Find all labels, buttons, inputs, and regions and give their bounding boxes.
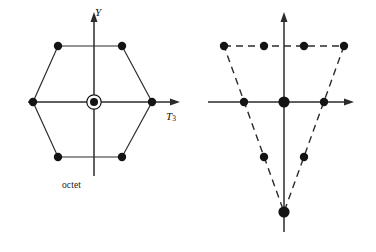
decuplet-diagram: Y T3 decuplet [188,0,376,252]
octet-diagram: Y T3 octet [0,0,188,252]
figure-canvas: Y T3 octet [0,0,376,252]
octet-point-right[interactable] [148,98,156,106]
decuplet-point-mid-1[interactable] [240,98,248,106]
octet-point-left[interactable] [29,98,37,106]
decuplet-point-low-2[interactable] [300,153,308,161]
decuplet-point-top-3[interactable] [300,42,308,50]
octet-point-center-degenerate[interactable] [87,95,101,109]
decuplet-point-apex[interactable] [278,206,289,217]
decuplet-point-mid-3[interactable] [320,98,328,106]
decuplet-point-top-4[interactable] [340,42,348,50]
octet-point-lower-left[interactable] [54,153,62,161]
octet-point-upper-right[interactable] [118,42,126,50]
octet-t3-axis-arrowhead [170,99,180,106]
octet-point-lower-right[interactable] [118,153,126,161]
decuplet-axes [208,20,346,232]
decuplet-t3-axis-arrowhead [344,99,354,106]
octet-y-axis-label: Y [95,6,101,18]
octet-point-upper-left[interactable] [54,42,62,50]
decuplet-y-axis-arrowhead [281,12,288,22]
octet-svg [0,0,188,252]
decuplet-point-top-2[interactable] [260,42,268,50]
octet-t3-axis-label: T3 [166,110,176,123]
decuplet-svg [188,0,376,252]
decuplet-point-top-1[interactable] [220,42,228,50]
octet-center-dot [90,98,98,106]
octet-caption: octet [62,180,81,190]
decuplet-point-low-1[interactable] [260,153,268,161]
decuplet-point-mid-2-origin[interactable] [278,96,289,107]
